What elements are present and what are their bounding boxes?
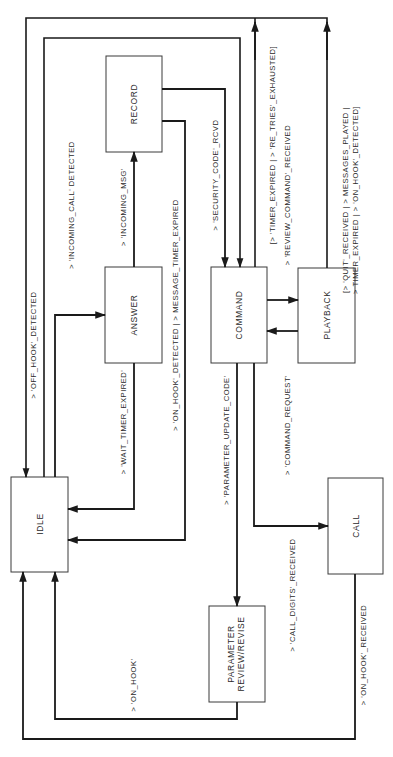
state-diagram: IDLE ANSWER RECORD COMMAND PLAYBACK CALL… (0, 0, 393, 757)
state-answer-label: ANSWER (129, 295, 139, 336)
label-playback-to-command: > 'COMMAND_REQUEST' (283, 375, 292, 475)
label-idle-to-answer: > 'INCOMING_CALL' DETECTED (67, 141, 76, 269)
label-answer-to-record: > 'INCOMING_MSG' (119, 168, 128, 246)
state-parameter-review-revise: PARAMETER REVIEW/REVISE (209, 606, 265, 702)
label-command-to-idle: [> 'TIMER_EXPIRED | > 'RE_TRIES'_EXHAUST… (268, 46, 277, 244)
state-call-label: CALL (351, 514, 361, 538)
state-param-label-line2: REVIEW/REVISE (236, 617, 246, 692)
label-call-to-idle: > 'ON_HOOK'_RECEIVED (359, 605, 368, 705)
state-command-label: COMMAND (234, 290, 244, 339)
state-record: RECORD (106, 56, 162, 152)
label-record-to-idle: > 'ON_HOOK'_DETECTED | > MESSAGE_TIMER_E… (171, 199, 180, 430)
label-command-to-parameter: > 'PARAMETER_UPDATE_CODE' (222, 375, 231, 504)
edge-idle-to-answer (55, 315, 105, 477)
state-idle: IDLE (11, 477, 68, 572)
label-playback-to-idle-2: > TIMER_EXPIRED | > 'ON_HOOK'_DETECTED] (351, 106, 360, 294)
label-parameter-to-idle: > 'ON_HOOK' (129, 658, 138, 711)
label-record-to-command: > 'SECURITY_CODE'_RCVD (211, 120, 220, 231)
state-command: COMMAND (211, 267, 267, 363)
label-idle-to-command: > 'OFF_HOOK'_DETECTED (29, 292, 38, 399)
label-command-to-call: > 'CALL_DIGITS'_RECEIVED (288, 538, 297, 651)
state-call: CALL (328, 478, 383, 574)
state-param-label-line1: PARAMETER (226, 625, 236, 683)
state-idle-label: IDLE (35, 513, 45, 534)
label-command-to-playback: > 'REVIEW_COMMAND'_RECEIVED (283, 125, 292, 265)
state-answer: ANSWER (105, 267, 162, 363)
state-record-label: RECORD (129, 84, 139, 124)
edge-call-to-idle (23, 572, 355, 739)
state-playback-label: PLAYBACK (322, 290, 332, 339)
label-answer-to-idle: > 'WAIT_TIMER_EXPIRED' (119, 370, 128, 475)
label-playback-to-idle-1: [> 'QUIT'_RECEIVED | > MESSAGES_PLAYED | (341, 107, 350, 293)
